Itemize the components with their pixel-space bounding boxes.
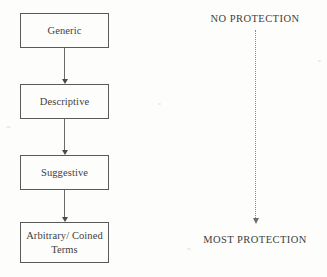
scan-speckle [187, 248, 191, 250]
dotted-arrow-stem [255, 30, 256, 218]
scan-speckle [158, 103, 161, 105]
flow-node-label: Generic [45, 24, 85, 37]
protection-gradient-arrow [251, 30, 260, 224]
connector-stem [64, 190, 65, 217]
flow-node-generic: Generic [20, 13, 109, 48]
trademark-distinctiveness-diagram: Generic Descriptive Suggestive Arbitrary… [0, 0, 327, 277]
flow-node-arbitrary-coined-terms: Arbitrary/ Coined Terms [20, 222, 109, 263]
flow-node-label: Arbitrary/ Coined Terms [23, 229, 106, 255]
flow-node-label: Suggestive [38, 166, 91, 179]
connector-stem [64, 119, 65, 150]
arrowhead-icon [253, 218, 259, 224]
flow-connector-arrow [60, 48, 69, 84]
flow-connector-arrow [60, 190, 69, 222]
scan-speckle [318, 60, 321, 62]
flow-node-label: Descriptive [37, 95, 93, 108]
scan-speckle [6, 126, 11, 128]
flow-node-descriptive: Descriptive [20, 84, 109, 119]
flow-node-suggestive: Suggestive [20, 155, 109, 190]
axis-label-no-protection: NO PROTECTION [175, 13, 327, 24]
axis-label-most-protection: MOST PROTECTION [175, 234, 327, 245]
connector-stem [64, 48, 65, 79]
flow-connector-arrow [60, 119, 69, 155]
